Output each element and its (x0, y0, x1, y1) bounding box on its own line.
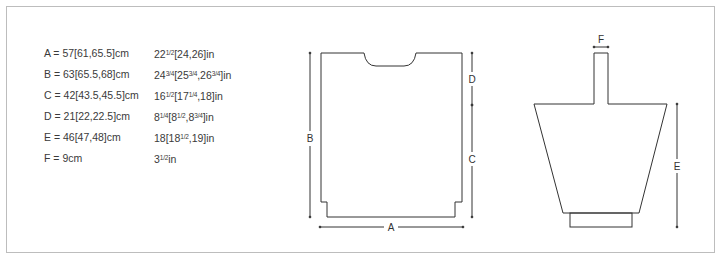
label-f: F (598, 34, 604, 45)
label-a: A (388, 222, 395, 233)
label-d: D (468, 74, 475, 85)
schematic-drawing: B D C A F E (0, 0, 723, 263)
label-e: E (674, 161, 681, 172)
sleeve-outline (534, 53, 667, 213)
sleeve-cuff (570, 213, 632, 227)
label-b: B (307, 133, 314, 144)
label-c: C (468, 154, 475, 165)
body-outline (321, 53, 462, 217)
